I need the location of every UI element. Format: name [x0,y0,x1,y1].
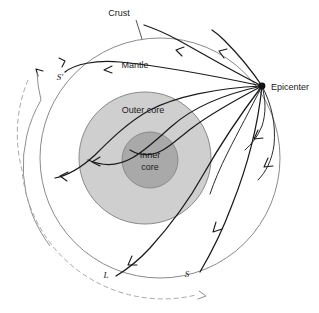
ray-arrow-mantle-top [176,47,184,56]
label-crust: Crust [108,8,130,18]
label-outer-core: Outer core [122,105,165,115]
seismic-diagram: Crust Mantle Outer core Inner core Epice… [0,0,319,313]
inner-core-circle [122,132,178,188]
label-inner-core-line2: core [141,162,159,172]
earth-cross-section: Crust Mantle Outer core Inner core Epice… [0,0,319,313]
surface-wave-arrow-lower [198,291,206,299]
ray-arrow-mantle-left [60,172,68,181]
ray-arrow-s [213,222,222,232]
ray-arrow-upper-right [219,49,227,58]
label-ray-l: L [102,270,108,280]
label-mantle: Mantle [121,60,148,70]
ray-path-mantle-top [144,25,262,86]
label-epicenter: Epicenter [271,82,309,92]
surface-wave-arc-solid-upper [37,72,41,100]
ray-path-s [200,86,262,272]
ray-arrow-s-prime-2 [59,58,65,67]
label-inner-core-line1: Inner [140,150,161,160]
epicenter-dot [259,83,266,90]
ray-path-s-prime [65,61,262,86]
label-ray-s: S [185,269,190,279]
crust-leader-line [136,20,142,39]
ray-arrow-s-prime-1 [104,66,112,73]
label-ray-s-prime: S' [57,72,65,82]
